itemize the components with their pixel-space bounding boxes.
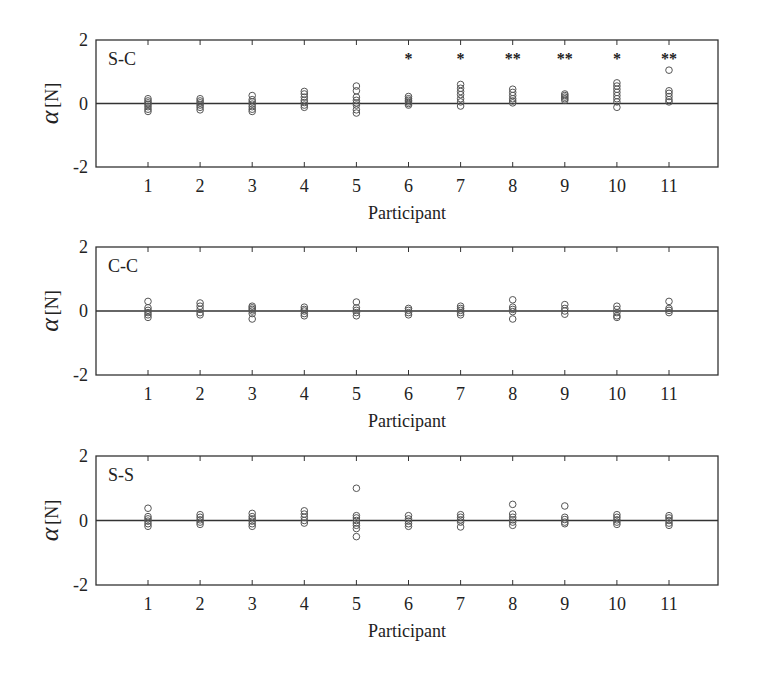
x-tick-label: 1 <box>144 384 153 404</box>
y-tick-label: 2 <box>79 446 88 466</box>
panel-s-c: 1234567891011-202S-Cα[N]Participant*****… <box>35 30 718 223</box>
x-tick-label: 4 <box>300 176 309 196</box>
x-tick-label: 9 <box>560 594 569 614</box>
x-tick-label: 3 <box>248 594 257 614</box>
x-tick-label: 6 <box>404 594 413 614</box>
data-point <box>145 505 152 512</box>
significance-marker: * <box>405 50 413 67</box>
x-tick-label: 1 <box>144 594 153 614</box>
x-tick-label: 11 <box>660 176 677 196</box>
x-tick-label: 10 <box>608 384 626 404</box>
data-point <box>457 524 464 531</box>
x-tick-label: 6 <box>404 176 413 196</box>
x-tick-label: 7 <box>456 176 465 196</box>
data-point <box>509 316 516 323</box>
x-tick-label: 3 <box>248 176 257 196</box>
x-axis-label: Participant <box>368 411 446 431</box>
y-axis-label: α[N] <box>35 500 64 542</box>
x-tick-label: 4 <box>300 594 309 614</box>
x-tick-label: 9 <box>560 176 569 196</box>
y-tick-label: 2 <box>79 237 88 257</box>
x-tick-label: 4 <box>300 384 309 404</box>
x-tick-label: 8 <box>508 384 517 404</box>
data-point <box>562 503 569 510</box>
y-tick-label: -2 <box>73 157 88 177</box>
significance-marker: * <box>613 50 621 67</box>
data-point <box>353 88 360 95</box>
x-tick-label: 5 <box>352 176 361 196</box>
panel-label: C-C <box>108 256 138 276</box>
x-tick-label: 11 <box>660 594 677 614</box>
figure: 1234567891011-202S-Cα[N]Participant*****… <box>0 0 760 684</box>
panel-label: S-C <box>108 49 136 69</box>
x-tick-label: 2 <box>196 384 205 404</box>
x-tick-label: 7 <box>456 594 465 614</box>
x-tick-label: 10 <box>608 594 626 614</box>
y-tick-label: 0 <box>79 511 88 531</box>
x-tick-label: 8 <box>508 176 517 196</box>
x-tick-label: 6 <box>404 384 413 404</box>
data-point <box>457 81 464 88</box>
y-tick-label: 2 <box>79 30 88 50</box>
data-point <box>353 533 360 540</box>
x-tick-label: 3 <box>248 384 257 404</box>
x-tick-label: 1 <box>144 176 153 196</box>
significance-marker: ** <box>661 50 677 67</box>
data-point <box>562 301 569 308</box>
x-tick-label: 5 <box>352 594 361 614</box>
data-point <box>509 501 516 508</box>
x-tick-label: 5 <box>352 384 361 404</box>
x-tick-label: 9 <box>560 384 569 404</box>
data-point <box>509 297 516 304</box>
x-tick-label: 7 <box>456 384 465 404</box>
y-axis-label: α[N] <box>35 83 64 125</box>
x-tick-label: 2 <box>196 176 205 196</box>
x-tick-label: 2 <box>196 594 205 614</box>
panel-s-s: 1234567891011-202S-Sα[N]Participant <box>35 446 718 641</box>
y-tick-label: 0 <box>79 94 88 114</box>
panel-c-c: 1234567891011-202C-Cα[N]Participant <box>35 237 718 431</box>
significance-marker: * <box>457 50 465 67</box>
significance-marker: ** <box>557 50 573 67</box>
y-tick-label: -2 <box>73 365 88 385</box>
panel-label: S-S <box>108 465 134 485</box>
data-point <box>666 67 673 74</box>
data-point <box>145 298 152 305</box>
y-tick-label: -2 <box>73 575 88 595</box>
y-tick-label: 0 <box>79 301 88 321</box>
x-axis-label: Participant <box>368 203 446 223</box>
x-tick-label: 11 <box>660 384 677 404</box>
data-point <box>666 298 673 305</box>
x-axis-label: Participant <box>368 621 446 641</box>
x-tick-label: 10 <box>608 176 626 196</box>
x-tick-label: 8 <box>508 594 517 614</box>
data-point <box>353 485 360 492</box>
y-axis-label: α[N] <box>35 290 64 332</box>
significance-marker: ** <box>505 50 521 67</box>
